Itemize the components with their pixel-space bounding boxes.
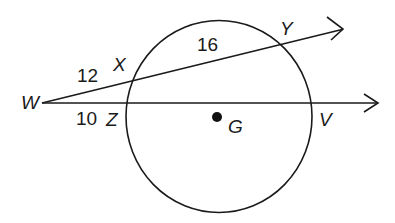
label-point-y: Y bbox=[280, 19, 293, 38]
center-point-g bbox=[212, 112, 222, 122]
length-wx: 12 bbox=[77, 66, 98, 85]
label-point-v: V bbox=[319, 110, 332, 129]
label-center-g: G bbox=[228, 117, 243, 136]
length-wz: 10 bbox=[76, 109, 97, 128]
label-point-w: W bbox=[21, 93, 39, 112]
arrowhead-ray-wy-icon bbox=[327, 17, 343, 40]
length-xy: 16 bbox=[197, 35, 218, 54]
label-point-z: Z bbox=[106, 110, 118, 129]
label-point-x: X bbox=[113, 55, 126, 74]
